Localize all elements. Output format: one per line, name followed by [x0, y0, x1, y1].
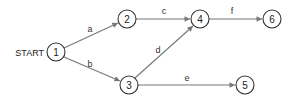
node-4: 4 — [191, 10, 209, 28]
node-label: 4 — [197, 14, 203, 25]
edge-d — [135, 26, 193, 78]
node-5: 5 — [236, 76, 254, 94]
edge-label-e: e — [184, 73, 189, 83]
node-label: 2 — [124, 14, 130, 25]
edge-label-a: a — [87, 24, 92, 34]
node-label: 5 — [242, 80, 248, 91]
node-3: 3 — [120, 76, 138, 94]
edge-label-b: b — [87, 59, 92, 69]
node-6: 6 — [263, 10, 281, 28]
edge-labels: a b c d e f — [87, 6, 233, 83]
node-2: 2 — [118, 10, 136, 28]
node-label: 3 — [126, 80, 132, 91]
edge-label-c: c — [162, 6, 167, 16]
edge-label-f: f — [231, 6, 234, 16]
edges — [64, 19, 262, 85]
node-label: 6 — [269, 14, 275, 25]
edge-label-d: d — [155, 45, 160, 55]
network-diagram: a b c d e f START 1 2 3 4 5 6 — [0, 0, 291, 101]
node-label: 1 — [53, 47, 59, 58]
node-1: 1 — [47, 43, 65, 61]
start-label: START — [15, 48, 44, 58]
